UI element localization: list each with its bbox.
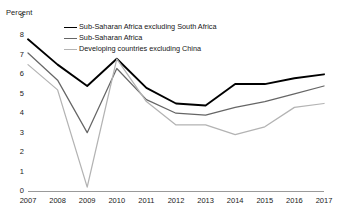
legend-item[interactable]: Developing countries excluding China xyxy=(64,44,217,54)
x-axis-tick-label: 2017 xyxy=(306,197,337,205)
y-axis-tick-label: 4 xyxy=(6,109,24,117)
legend-item-label: Developing countries excluding China xyxy=(79,45,201,52)
series-line xyxy=(28,59,324,187)
y-axis-tick-label: 7 xyxy=(6,51,24,59)
legend-color-swatch-icon xyxy=(64,27,77,28)
chart-legend: Sub-Saharan Africa excluding South Afric… xyxy=(64,22,217,55)
legend-item-label: Sub-Saharan Africa excluding South Afric… xyxy=(79,23,217,30)
legend-color-swatch-icon xyxy=(64,49,77,50)
series-line xyxy=(28,53,324,133)
y-axis-tick-label: 6 xyxy=(6,70,24,78)
y-axis-tick-label: 3 xyxy=(6,129,24,137)
legend-color-swatch-icon xyxy=(64,38,77,39)
axis-baseline xyxy=(28,191,324,192)
y-axis-tick-label: 0 xyxy=(6,187,24,195)
y-axis-tick-label: 5 xyxy=(6,90,24,98)
y-axis-tick-label: 1 xyxy=(6,168,24,176)
legend-item[interactable]: Sub-Saharan Africa excluding South Afric… xyxy=(64,22,217,32)
y-axis-tick-label: 2 xyxy=(6,148,24,156)
y-axis-tick-label: 8 xyxy=(6,31,24,39)
legend-item-label: Sub-Saharan Africa xyxy=(79,34,142,41)
legend-item[interactable]: Sub-Saharan Africa xyxy=(64,33,217,43)
y-axis-tick-label: 9 xyxy=(6,12,24,20)
